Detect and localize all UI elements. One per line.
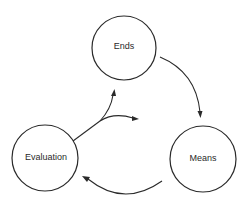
edge-evaluation-branch	[73, 89, 139, 141]
arrowhead-icon	[198, 111, 203, 118]
node-evaluation: Evaluation	[12, 125, 78, 191]
node-ends-label: Ends	[114, 41, 135, 51]
edge-means-to-evaluation-line	[88, 179, 162, 194]
arrowhead-icon	[111, 89, 116, 96]
node-means: Means	[170, 126, 236, 192]
node-evaluation-label: Evaluation	[25, 152, 67, 162]
edge-evaluation-to-ends-line	[100, 95, 113, 121]
node-means-label: Means	[189, 153, 217, 163]
cycle-diagram: Ends Means Evaluation	[0, 0, 248, 203]
edge-evaluation-to-means-line	[100, 116, 133, 121]
arrowhead-icon	[132, 116, 139, 121]
edge-ends-to-means-line	[160, 57, 200, 112]
node-ends: Ends	[92, 16, 156, 80]
edge-means-to-evaluation	[82, 176, 162, 194]
edge-evaluation-stem	[73, 121, 100, 141]
edge-ends-to-means	[160, 57, 203, 118]
